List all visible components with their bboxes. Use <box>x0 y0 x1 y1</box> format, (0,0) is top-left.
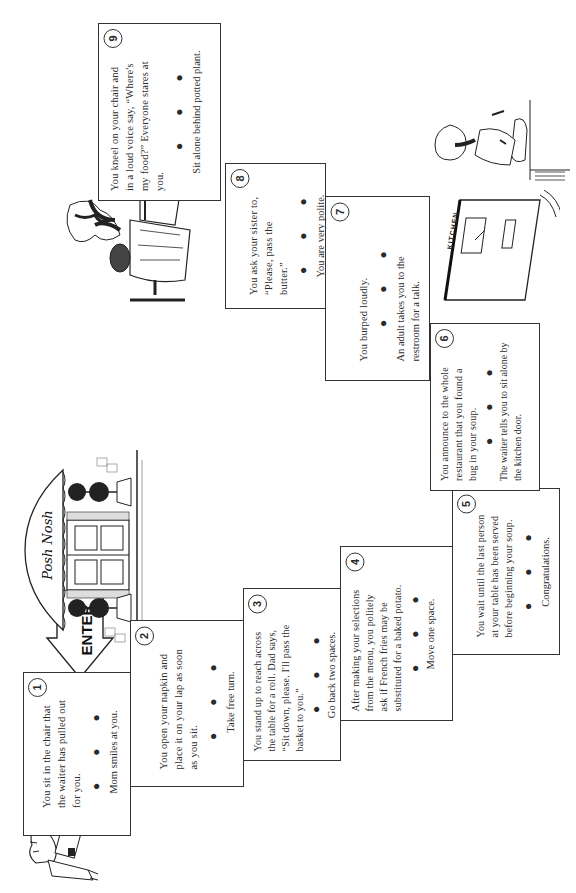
space-outcome: An adult takes you to the restroom for a… <box>392 206 422 371</box>
space-number-badge: 2 <box>135 626 154 645</box>
space-outcome: Mom smiles at you. <box>106 682 121 822</box>
space-outcome: Congratulations. <box>538 498 553 645</box>
separator-dots: ● ● ● <box>521 498 535 633</box>
game-space-4: 4 After making your selections from the … <box>340 546 453 721</box>
space-outcome: Move one space. <box>422 556 437 711</box>
separator-dots: ● ● ● <box>89 682 103 810</box>
separator-dots: ● ● ● <box>407 556 421 699</box>
separator-dots: ● ● ● <box>206 630 220 761</box>
child-by-kitchen-illustration <box>420 100 576 210</box>
space-outcome: Sit alone behind potted plant. <box>188 33 203 191</box>
space-prompt: You kneel on your chair and in a loud vo… <box>106 33 166 191</box>
game-space-1: 1 You sit in the chair that the waiter h… <box>23 672 131 836</box>
space-prompt: You burped loudly. <box>333 206 370 371</box>
space-prompt: You sit in the chair that the waiter has… <box>33 682 84 822</box>
space-outcome: Go back two spaces. <box>324 598 339 751</box>
space-number-badge: 6 <box>435 329 454 348</box>
game-space-6: 6 You announce to the whole restaurant t… <box>430 323 540 491</box>
game-space-5: 5 You wait until the last person at your… <box>452 488 560 655</box>
separator-dots: ● ● ● <box>309 598 323 739</box>
game-space-2: 2 You open your napkin and place it on y… <box>130 620 244 787</box>
game-space-9: 9 You kneel on your chair and in a loud … <box>98 23 221 201</box>
space-number-badge: 1 <box>28 678 47 697</box>
space-number-badge: 4 <box>345 552 364 571</box>
space-number-badge: 5 <box>457 494 476 513</box>
separator-dots: ● ● ● <box>375 206 389 359</box>
space-prompt: After making your selections from the me… <box>348 556 404 711</box>
space-number-badge: 8 <box>230 169 249 188</box>
separator-dots: ● ● ● <box>171 33 185 179</box>
game-space-7: 7 You burped loudly. ● ● ● An adult take… <box>325 196 430 381</box>
space-prompt: You announce to the whole restaurant tha… <box>438 333 480 481</box>
space-number-badge: 9 <box>103 29 122 48</box>
restaurant-sign: Posh Nosh <box>40 505 60 585</box>
space-prompt: You wait until the last person at your t… <box>460 498 516 645</box>
game-space-8: 8 You ask your sister to, “Please, pass … <box>225 163 326 309</box>
space-outcome: You are very polite. <box>312 173 327 299</box>
game-space-3: 3 You stand up to reach across the table… <box>243 588 341 761</box>
space-prompt: You open your napkin and place it on you… <box>138 630 201 773</box>
space-number-badge: 3 <box>248 594 267 613</box>
space-prompt: You stand up to reach across the table f… <box>251 598 307 751</box>
space-prompt: You ask your sister to, “Please, pass th… <box>233 173 290 299</box>
separator-dots: ● ● ● <box>295 173 309 287</box>
separator-dots: ● ● ● <box>482 333 496 469</box>
space-number-badge: 7 <box>330 202 349 221</box>
space-outcome: Take free turn. <box>223 630 238 773</box>
space-outcome: The waiter tells you to sit alone by the… <box>497 333 525 481</box>
